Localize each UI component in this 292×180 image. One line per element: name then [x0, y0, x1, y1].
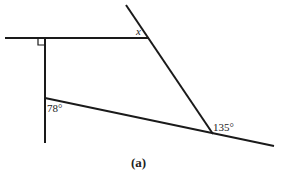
bottom-slanted-line	[45, 98, 274, 146]
right-angle-marker-icon	[38, 38, 45, 45]
geometry-diagram: x 78° 135° (a)	[0, 0, 292, 180]
figure-caption: (a)	[131, 155, 146, 170]
angle-x-label: x	[135, 25, 141, 37]
angle-135-label: 135°	[213, 121, 234, 133]
angle-78-label: 78°	[47, 102, 62, 114]
